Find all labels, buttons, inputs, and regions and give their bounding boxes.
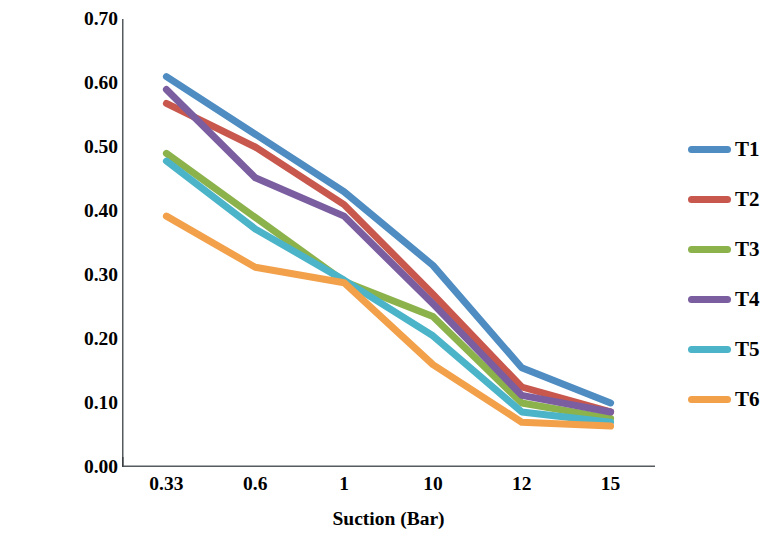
y-tick-label: 0.20 xyxy=(52,329,118,349)
legend-item-t6[interactable]: T6 xyxy=(688,386,760,412)
legend-swatch-t1 xyxy=(688,146,731,153)
legend-swatch-t6 xyxy=(688,396,731,403)
legend-item-t1[interactable]: T1 xyxy=(688,136,760,162)
legend-label: T2 xyxy=(735,189,760,210)
legend-swatch-t5 xyxy=(688,346,731,353)
legend-swatch-t3 xyxy=(688,246,731,253)
x-tick-label: 0.33 xyxy=(121,474,211,494)
y-tick-label: 0.40 xyxy=(52,201,118,221)
legend-label: T6 xyxy=(735,389,760,410)
chart-legend: T1T2T3T4T5T6 xyxy=(688,136,778,426)
y-axis-tick-labels: 0.700.600.500.400.300.200.100.00 xyxy=(50,0,118,540)
y-tick-label: 0.00 xyxy=(52,457,118,477)
chart-svg xyxy=(122,19,655,467)
series-line-t1[interactable] xyxy=(166,77,610,403)
x-tick-label: 1 xyxy=(299,474,389,494)
x-axis-tick-labels: 0.330.61101215 xyxy=(122,474,655,504)
y-tick-label: 0.70 xyxy=(52,9,118,29)
y-tick-label: 0.50 xyxy=(52,137,118,157)
x-axis-title: Suction (Bar) xyxy=(122,508,655,530)
x-tick-label: 0.6 xyxy=(210,474,300,494)
legend-item-t5[interactable]: T5 xyxy=(688,336,760,362)
legend-label: T5 xyxy=(735,339,760,360)
x-tick-label: 15 xyxy=(566,474,656,494)
legend-item-t4[interactable]: T4 xyxy=(688,286,760,312)
legend-label: T1 xyxy=(735,139,760,160)
y-tick-label: 0.60 xyxy=(52,73,118,93)
legend-item-t3[interactable]: T3 xyxy=(688,236,760,262)
legend-swatch-t2 xyxy=(688,196,731,203)
y-tick-label: 0.10 xyxy=(52,393,118,413)
legend-label: T3 xyxy=(735,239,760,260)
x-tick-label: 12 xyxy=(477,474,567,494)
x-tick-label: 10 xyxy=(388,474,478,494)
legend-label: T4 xyxy=(735,289,760,310)
y-tick-label: 0.30 xyxy=(52,265,118,285)
legend-swatch-t4 xyxy=(688,296,731,303)
plot-area xyxy=(122,19,655,467)
legend-item-t2[interactable]: T2 xyxy=(688,186,760,212)
chart-page: Moisture conten (g mg-1) of CZNCPBCs 0.7… xyxy=(0,0,778,540)
